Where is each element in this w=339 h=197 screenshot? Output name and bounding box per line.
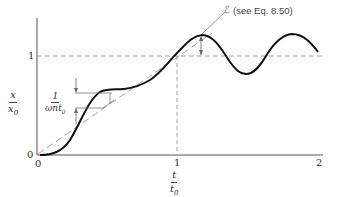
response-curve [40,34,318,155]
step-slant-line [103,100,114,108]
y-axis-label-numerator: x [9,90,17,103]
x-tick-0: 0 [35,159,41,169]
epsilon-note: (see Eq. 8.50) [233,6,293,16]
x-axis-label-den-sub: 0 [174,189,178,197]
step-arrow-bottom-icon [74,108,78,113]
epsilon-arrow-up [199,36,203,41]
x-tick-1: 1 [174,158,180,168]
x-axis-label: t t0 [170,170,179,196]
epsilon-symbol: ℰ [224,5,230,15]
y-tick-0: 0 [27,150,33,160]
x-axis-label-denominator: t0 [170,183,179,197]
y-axis-label: x x0 [8,90,18,117]
y-tick-1: 1 [28,51,34,61]
epsilon-leader-line [202,12,225,34]
step-arrow-top-icon [74,88,78,93]
step-height-numerator: 1 [51,92,59,103]
y-axis-label-denominator: x0 [8,103,18,117]
x-tick-2: 2 [316,158,322,168]
epsilon-arrow-down [199,50,203,55]
response-diagram: 1 0 0 1 2 x x0 t t0 1 ωnt0 ℰ (see Eq. 8.… [0,0,339,196]
x-axis-label-numerator: t [171,170,177,183]
step-height-label: 1 ωnt0 [45,92,66,116]
step-height-den-base: ωnt [45,103,62,113]
step-height-den-sub: 0 [62,108,66,115]
y-axis-label-den-sub: 0 [14,109,18,117]
step-height-denominator: ωnt0 [45,103,66,115]
